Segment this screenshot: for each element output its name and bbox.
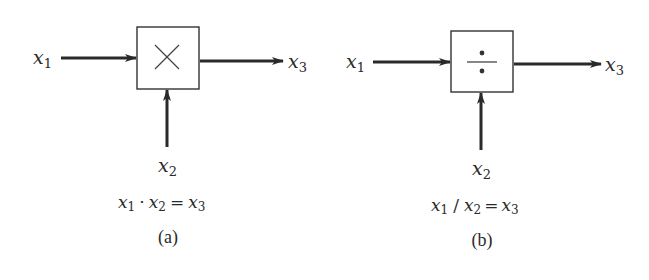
equation-a: x1·x2=x3 [118, 192, 205, 214]
output-x3-label-b: x3 [605, 53, 624, 78]
input-x2-label-b: x2 [472, 157, 491, 182]
equation-b: x1/x2=x3 [431, 195, 519, 217]
diagram-b-divider: x1 x3 x2 x1/x2=x3 (b) [346, 31, 624, 251]
block-diagram-canvas: x1 x3 x2 x1·x2=x3 (a) x1 [0, 0, 649, 280]
input-x1-label-b: x1 [346, 50, 365, 75]
caption-a: (a) [158, 227, 178, 248]
output-x3-label-a: x3 [288, 50, 307, 75]
diagram-a-multiplier: x1 x3 x2 x1·x2=x3 (a) [33, 27, 307, 248]
caption-b: (b) [472, 230, 493, 251]
input-x2-label-a: x2 [158, 154, 177, 179]
input-x1-label-a: x1 [33, 46, 52, 71]
